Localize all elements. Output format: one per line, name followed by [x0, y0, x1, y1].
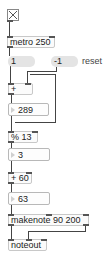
metro-inlet-left[interactable] — [7, 36, 13, 38]
toggle[interactable] — [7, 9, 19, 21]
makenote-inlet-right[interactable] — [83, 214, 89, 216]
metro-label: metro 250 — [10, 37, 51, 47]
reset-comment: reset — [82, 56, 102, 66]
toggle-outlet[interactable] — [7, 20, 13, 22]
add60-outlet[interactable] — [8, 182, 14, 184]
cord-makenote-noteout-vel-v2 — [28, 231, 29, 239]
makenote-inlet-mid[interactable] — [46, 214, 52, 216]
modulo-outlet[interactable] — [8, 141, 14, 143]
cord-number-makenote — [11, 204, 12, 214]
cord-msgneg1-plus-v2 — [27, 71, 28, 83]
add60-object[interactable]: + 60 — [8, 172, 32, 184]
cord-number-add60 — [11, 160, 12, 172]
add60-inlet-right[interactable] — [26, 172, 32, 174]
modulo-label: % 13 — [11, 132, 32, 142]
modulo-inlet-left[interactable] — [8, 131, 14, 133]
noteout-object[interactable]: noteout — [8, 239, 47, 251]
message-1[interactable]: 1 — [8, 56, 35, 67]
makenote-outlet-right[interactable] — [83, 224, 89, 226]
noteout-inlet-right[interactable] — [41, 239, 47, 241]
noteout-label: noteout — [11, 240, 41, 250]
cord-feedback-h-top — [30, 74, 56, 75]
mod-number-box[interactable]: 3 — [8, 148, 50, 161]
metro-inlet-right[interactable] — [49, 36, 55, 38]
counter-number-box[interactable]: 289 — [8, 103, 49, 116]
number-triangle-icon — [11, 107, 15, 113]
metro-outlet[interactable] — [7, 46, 13, 48]
makenote-label: makenote 90 200 — [11, 215, 81, 225]
cord-msgneg1-plus-h — [27, 71, 57, 72]
makenote-outlet-left[interactable] — [8, 224, 14, 226]
mod-number-value: 3 — [18, 150, 23, 160]
number-triangle-icon — [11, 196, 15, 202]
cord-msg1-plus — [10, 66, 11, 83]
makenote-inlet-left[interactable] — [8, 214, 14, 216]
message-neg1[interactable]: -1 — [51, 56, 78, 67]
message-1-label: 1 — [11, 56, 16, 66]
x-mark-icon — [8, 10, 18, 20]
pitch-number-box[interactable]: 63 — [8, 192, 50, 205]
message-neg1-label: -1 — [54, 56, 62, 66]
pitch-number-value: 63 — [18, 194, 28, 204]
makenote-object[interactable]: makenote 90 200 — [8, 214, 89, 226]
plus-object[interactable]: + — [8, 83, 33, 95]
cord-number-modulo — [11, 115, 12, 131]
plus-inlet-left[interactable] — [8, 83, 14, 85]
metro-object[interactable]: metro 250 — [7, 36, 55, 48]
cord-feedback-h-bottom — [15, 122, 56, 123]
noteout-inlet-left[interactable] — [8, 239, 14, 241]
plus-outlet[interactable] — [8, 93, 14, 95]
noteout-inlet-mid[interactable] — [26, 239, 32, 241]
cord-toggle-metro — [9, 21, 10, 36]
modulo-object[interactable]: % 13 — [8, 131, 38, 143]
cord-makenote-noteout-vel-h — [28, 231, 86, 232]
number-triangle-icon — [11, 152, 15, 158]
counter-number-value: 289 — [18, 105, 33, 115]
cord-makenote-noteout-pitch — [11, 226, 12, 239]
plus-inlet-right[interactable] — [25, 83, 31, 85]
cord-metro-msg1 — [9, 47, 10, 56]
modulo-inlet-right[interactable] — [32, 131, 38, 133]
cord-feedback-v1 — [55, 74, 56, 122]
add60-inlet-left[interactable] — [8, 172, 14, 174]
